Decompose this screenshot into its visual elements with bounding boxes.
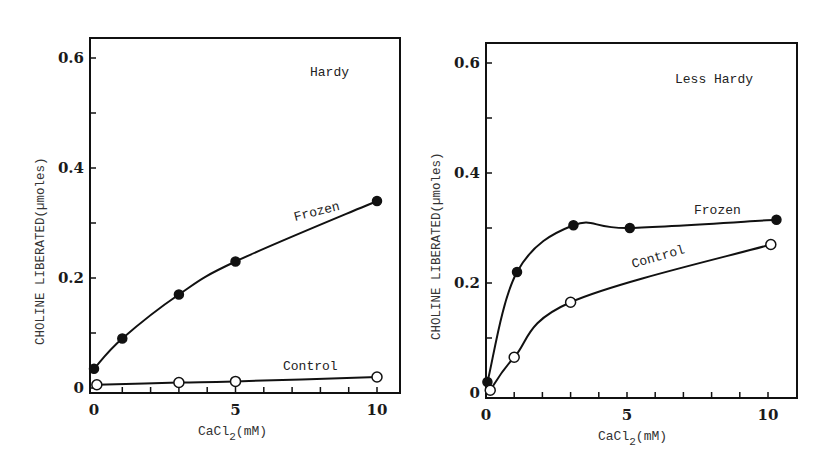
control-data-point	[174, 378, 184, 388]
panel-title: Hardy	[310, 65, 349, 80]
control-curve	[490, 245, 771, 391]
frozen-data-point	[569, 221, 578, 230]
control-series-label: Control	[630, 242, 687, 272]
x-tick-label: 10	[367, 401, 388, 419]
y-axis-label: CHOLINE LIBERATED(µmoles)	[34, 157, 48, 345]
control-data-point	[231, 376, 241, 386]
chart-panel-hardy: 00.20.40.6 0510 Hardy Frozen Control CHO…	[34, 38, 400, 443]
y-tick-label: 0.2	[58, 269, 84, 287]
frozen-data-point	[231, 257, 240, 266]
y-axis-label: CHOLINE LIBERATED(µmoles)	[430, 152, 444, 340]
x-tick-label: 5	[622, 406, 632, 424]
x-axis-label-unit: (mM)	[636, 429, 667, 444]
frozen-data-point	[118, 334, 127, 343]
frozen-curve	[487, 220, 776, 382]
frozen-series-label: Frozen	[292, 199, 341, 225]
frozen-curve	[94, 201, 377, 369]
chart-panel-less-hardy: 00.20.40.6 0510 Less Hardy Frozen Contro…	[430, 43, 797, 448]
x-axis-label-subscript: 2	[229, 431, 236, 443]
y-tick-label: 0.6	[454, 54, 480, 72]
frozen-series-label: Frozen	[694, 203, 741, 218]
x-axis-label-subscript: 2	[629, 436, 636, 448]
control-data-point	[372, 372, 382, 382]
series-markers	[90, 197, 383, 390]
x-tick-label: 10	[758, 406, 779, 424]
y-tick-label: 0.2	[454, 274, 480, 292]
panel-title: Less Hardy	[675, 72, 753, 87]
y-tick-label: 0.6	[58, 49, 84, 67]
control-data-point	[566, 297, 576, 307]
x-axis-label-main: CaCl	[598, 429, 629, 444]
control-data-point	[766, 240, 776, 250]
plot-frame	[90, 38, 400, 393]
control-data-point	[92, 380, 102, 390]
x-axis-label-unit: (mM)	[236, 424, 267, 439]
x-tick-label: 0	[89, 401, 99, 419]
series-curves	[94, 201, 377, 385]
frozen-data-point	[373, 197, 382, 206]
x-tick-label: 5	[230, 401, 240, 419]
figure: 00.20.40.6 0510 Hardy Frozen Control CHO…	[0, 0, 830, 476]
frozen-data-point	[90, 364, 99, 373]
x-axis-label: CaCl2(mM)	[598, 429, 667, 448]
frozen-data-point	[513, 268, 522, 277]
x-axis-ticks: 0510	[89, 387, 388, 419]
x-tick-label: 0	[481, 406, 491, 424]
control-series-label: Control	[283, 359, 338, 374]
y-tick-label: 0.4	[454, 164, 480, 182]
frozen-data-point	[174, 290, 183, 299]
y-tick-label: 0	[74, 379, 84, 397]
frozen-data-point	[625, 224, 634, 233]
y-tick-label: 0.4	[58, 159, 84, 177]
control-data-point	[509, 352, 519, 362]
frozen-data-point	[772, 215, 781, 224]
series-markers	[483, 215, 781, 395]
x-axis-ticks: 0510	[481, 392, 779, 424]
x-axis-label-main: CaCl	[198, 424, 229, 439]
control-data-point	[485, 385, 495, 395]
y-tick-label: 0	[470, 384, 480, 402]
x-axis-label: CaCl2(mM)	[198, 424, 267, 443]
series-curves	[487, 220, 776, 391]
